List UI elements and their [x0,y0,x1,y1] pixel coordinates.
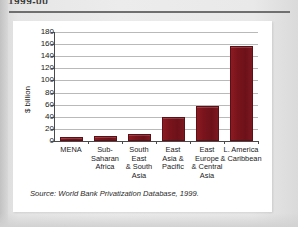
x-tick-mark [88,141,89,144]
gridline [54,80,258,81]
gridline [54,129,258,130]
bar [196,106,219,141]
x-tick-mark [156,141,157,144]
x-tick-mark [258,141,259,144]
bar [162,117,185,141]
y-axis-line [54,32,55,142]
x-category-label: L. America & Caribbean [220,146,262,163]
bar-highlight [95,137,116,138]
plot-area [54,32,258,141]
bar-highlight [197,107,218,108]
bar-chart: $ billion 020406080100120140160180 MENAS… [13,21,272,181]
gridline [54,32,258,33]
page-left-edge [0,0,8,227]
source-note: Source: World Bank Privatization Databas… [30,189,199,198]
x-tick-mark [224,141,225,144]
bar [128,134,151,141]
page-bottom-fade [0,213,298,227]
bar-highlight [231,47,252,48]
gridline [54,105,258,106]
x-tick-mark [122,141,123,144]
gridline [54,93,258,94]
gridline [54,44,258,45]
y-axis-ticks: 020406080100120140160180 [13,21,54,152]
header-rule [9,11,290,13]
bar-highlight [163,118,184,119]
gridline [54,117,258,118]
bar [230,46,253,141]
bar-highlight [129,135,150,136]
x-tick-mark [190,141,191,144]
gridline [54,68,258,69]
cut-off-heading: 1999-00 [8,0,48,4]
bar-highlight [61,138,82,139]
gridline [54,56,258,57]
chart-card: $ billion 020406080100120140160180 MENAS… [13,21,272,212]
